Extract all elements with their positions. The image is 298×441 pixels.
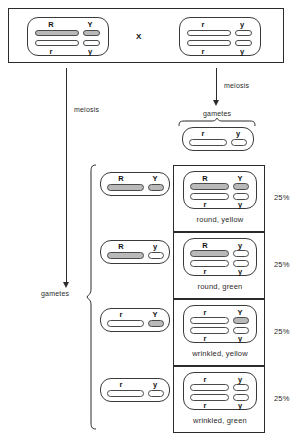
allele-label: r — [38, 48, 64, 56]
allele-label: y — [231, 268, 249, 276]
offspring-cell: r Y r y — [183, 305, 257, 343]
phenotype-label: wrinkled, green — [174, 417, 266, 425]
chromosome-bar — [107, 390, 144, 397]
allele-label: R — [193, 242, 217, 250]
allele-label: y — [232, 21, 252, 29]
chromosome-bar — [231, 139, 247, 146]
allele-label: y — [231, 242, 249, 250]
allele-label: R — [109, 175, 133, 183]
meiosis-arrow-right-head — [213, 100, 219, 106]
allele-label: R — [38, 21, 64, 29]
allele-label: r — [190, 21, 216, 29]
allele-label: Y — [80, 21, 100, 29]
offspring-box: R y r y round, green — [173, 232, 265, 299]
allele-label: r — [190, 48, 216, 56]
allele-label: y — [231, 376, 249, 384]
phenotype-label: round, green — [174, 283, 266, 291]
chromosome-bar — [233, 250, 249, 257]
chromosome-bar — [148, 184, 164, 191]
chromosome-bar — [35, 40, 79, 47]
meiosis-arrow-left-head — [63, 282, 69, 288]
allele-label: y — [231, 201, 249, 209]
chromosome-bar — [235, 30, 252, 37]
allele-label: y — [231, 335, 249, 343]
chromosome-bar — [148, 320, 164, 327]
gamete-brace-left — [86, 164, 97, 430]
offspring-box: r Y r y wrinkled, yellow — [173, 299, 265, 366]
chromosome-bar — [190, 260, 229, 267]
chromosome-bar — [233, 327, 249, 334]
chromosome-bar — [190, 317, 229, 324]
allele-label: r — [109, 311, 133, 319]
chromosome-bar — [190, 193, 229, 200]
allele-label: r — [109, 381, 133, 389]
chromosome-bar — [187, 30, 231, 37]
chromosome-bar — [233, 394, 249, 401]
allele-label: y — [232, 48, 252, 56]
allele-label: Y — [146, 175, 164, 183]
chromosome-bar — [107, 184, 144, 191]
chromosome-bar — [148, 390, 164, 397]
chromosome-bar — [190, 250, 229, 257]
gametes-label-right: gametes — [203, 110, 231, 118]
cross-symbol: X — [136, 32, 141, 41]
allele-label: y — [146, 243, 164, 251]
meiosis-arrow-left-shaft — [66, 68, 67, 283]
allele-label: r — [191, 130, 215, 138]
allele-label: y — [146, 381, 164, 389]
chromosome-bar — [189, 139, 227, 146]
meiosis-arrow-right-shaft — [216, 68, 217, 101]
percentage-label: 25% — [274, 395, 290, 403]
parent-cell-paternal: r y r y — [179, 17, 261, 56]
offspring-cell: R y r y — [183, 238, 257, 276]
allele-label: R — [193, 175, 217, 183]
allele-label: y — [231, 402, 249, 410]
offspring-cell: R Y r y — [183, 171, 257, 209]
offspring-box: R Y r y round, yellow — [173, 165, 265, 232]
allele-label: Y — [146, 311, 164, 319]
allele-label: R — [109, 243, 133, 251]
allele-label: r — [193, 268, 217, 276]
allele-label: y — [80, 48, 100, 56]
gamete-cell-paternal: r y — [182, 127, 254, 151]
gamete-cell-maternal: r Y — [100, 308, 170, 332]
chromosome-bar — [233, 193, 249, 200]
chromosome-bar — [83, 30, 100, 37]
chromosome-bar — [235, 40, 252, 47]
allele-label: r — [193, 335, 217, 343]
chromosome-bar — [35, 30, 79, 37]
chromosome-bar — [107, 320, 144, 327]
allele-label: r — [193, 309, 217, 317]
percentage-label: 25% — [274, 328, 290, 336]
chromosome-bar — [190, 384, 229, 391]
meiosis-label-left: meiosis — [74, 106, 99, 114]
chromosome-bar — [83, 40, 100, 47]
chromosome-bar — [233, 317, 249, 324]
dihybrid-cross-diagram: R Y r y X r y r y meiosis meiosis game — [0, 0, 298, 441]
chromosome-bar — [190, 327, 229, 334]
gamete-cell-maternal: r y — [100, 378, 170, 402]
offspring-box: r y r y wrinkled, green — [173, 366, 265, 433]
gametes-label-left: gametes — [41, 290, 69, 298]
chromosome-bar — [233, 384, 249, 391]
allele-label: r — [193, 376, 217, 384]
meiosis-label-right: meiosis — [224, 82, 249, 90]
chromosome-bar — [190, 183, 229, 190]
gamete-cell-maternal: R y — [100, 240, 170, 264]
chromosome-bar — [107, 252, 144, 259]
chromosome-bar — [233, 260, 249, 267]
chromosome-bar — [233, 183, 249, 190]
phenotype-label: wrinkled, yellow — [174, 350, 266, 358]
allele-label: r — [193, 402, 217, 410]
allele-label: Y — [231, 175, 249, 183]
chromosome-bar — [190, 394, 229, 401]
percentage-label: 25% — [274, 194, 290, 202]
allele-label: r — [193, 201, 217, 209]
chromosome-bar — [187, 40, 231, 47]
parent-cell-maternal: R Y r y — [27, 17, 109, 56]
allele-label: Y — [231, 309, 249, 317]
phenotype-label: round, yellow — [174, 216, 266, 224]
offspring-cell: r y r y — [183, 372, 257, 410]
allele-label: y — [229, 130, 247, 138]
percentage-label: 25% — [274, 261, 290, 269]
